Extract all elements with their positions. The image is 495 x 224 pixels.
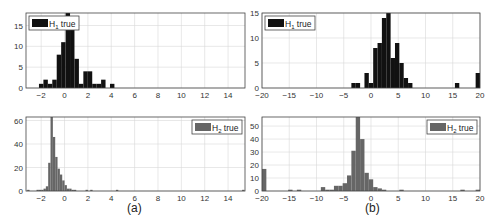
histogram-bar	[60, 175, 62, 191]
y-tick-label: 10	[14, 42, 23, 51]
x-tick-label: −5	[339, 91, 349, 100]
x-tick-label: 2	[86, 194, 91, 203]
x-tick-label: 5	[396, 194, 401, 203]
histogram-bar	[262, 169, 266, 191]
legend: H1 true	[265, 16, 315, 30]
y-tick-label: 20	[250, 161, 259, 170]
histogram-bar	[369, 179, 373, 191]
x-tick-label: 14	[224, 194, 233, 203]
histogram-bar	[101, 80, 105, 88]
caption-a: (a)	[127, 201, 142, 215]
histogram-bar	[70, 30, 74, 88]
y-tick-label: 20	[14, 164, 23, 173]
y-tick-label: 15	[250, 9, 259, 18]
legend-label: H1 true	[285, 19, 312, 30]
histogram-bar	[46, 186, 48, 191]
x-tick-label: −5	[339, 194, 349, 203]
histogram-bar	[356, 83, 360, 88]
x-tick-label: 0	[62, 194, 67, 203]
legend: H1 true	[29, 16, 79, 30]
y-tick-label: 40	[250, 135, 259, 144]
x-tick-label: 12	[200, 194, 209, 203]
figure: −202468101214051015H1 true−2024681012140…	[0, 0, 495, 224]
histogram-bar	[58, 169, 60, 191]
histogram-bar	[65, 185, 67, 191]
y-tick-label: 0	[19, 187, 24, 196]
legend-swatch	[32, 19, 48, 27]
x-tick-label: 10	[177, 194, 186, 203]
x-tick-label: −2	[37, 194, 47, 203]
histogram-bar	[347, 175, 351, 191]
y-tick-label: 5	[255, 59, 260, 68]
histogram-bar	[110, 84, 114, 88]
histogram-bar	[373, 48, 377, 88]
legend-label: H2 true	[447, 123, 474, 134]
caption-b: (b)	[365, 201, 380, 215]
histogram-bar	[455, 83, 459, 88]
histogram-bar	[48, 84, 52, 88]
histogram-bar	[395, 43, 399, 88]
x-tick-label: 8	[156, 91, 161, 100]
x-tick-label: 2	[86, 91, 91, 100]
histogram-bar	[57, 55, 61, 88]
x-tick-label: −15	[282, 91, 296, 100]
histogram-bar	[88, 71, 92, 88]
x-tick-label: 5	[396, 91, 401, 100]
x-tick-label: 20	[476, 91, 485, 100]
y-tick-label: 60	[14, 117, 23, 126]
histogram-bar	[382, 18, 386, 88]
histogram-bar	[43, 80, 47, 88]
x-tick-label: −10	[310, 91, 324, 100]
histogram-bar	[399, 63, 403, 88]
y-tick-label: 10	[250, 174, 259, 183]
histogram-bar	[351, 83, 355, 88]
histogram-bar	[39, 84, 43, 88]
y-tick-label: 15	[14, 22, 23, 31]
histogram-figure: −202468101214051015H1 true−2024681012140…	[0, 0, 495, 224]
x-tick-label: 10	[421, 91, 430, 100]
axes-a-bottom: −2024681012140204060H2 true	[14, 117, 245, 203]
histogram-bar	[343, 183, 347, 191]
histogram-bar	[364, 73, 368, 88]
histogram-bar	[334, 186, 338, 191]
histogram-bar	[55, 157, 57, 191]
y-tick-label: 50	[250, 122, 259, 131]
legend-swatch	[268, 19, 284, 27]
legend-swatch	[430, 123, 446, 131]
histogram-bar	[92, 84, 96, 88]
histogram-bar	[391, 58, 395, 88]
x-tick-label: 10	[177, 91, 186, 100]
histogram-bar	[51, 117, 53, 191]
histogram-bar	[369, 83, 373, 88]
x-tick-label: 10	[421, 194, 430, 203]
legend: H2 true	[192, 120, 242, 134]
histogram-bar	[476, 73, 480, 88]
histogram-bar	[351, 151, 355, 191]
histogram-bar	[408, 83, 412, 88]
histogram-bar	[360, 139, 364, 191]
histogram-bar	[321, 187, 325, 191]
axes-a-top: −202468101214051015H1 true	[14, 13, 245, 100]
y-tick-label: 5	[19, 63, 24, 72]
y-tick-label: 40	[14, 140, 23, 149]
x-tick-label: 12	[200, 91, 209, 100]
x-tick-label: 0	[62, 91, 67, 100]
histogram-bar	[74, 59, 78, 88]
x-tick-label: −2	[37, 91, 47, 100]
x-tick-label: 0	[369, 91, 374, 100]
histogram-bar	[356, 117, 360, 191]
x-tick-label: −15	[282, 194, 296, 203]
axes-b-bottom: −20−15−10−50510152001020304050H2 true	[250, 117, 485, 203]
x-tick-label: 15	[448, 91, 457, 100]
histogram-bar	[52, 80, 56, 88]
histogram-bar	[373, 187, 377, 191]
x-tick-label: 6	[132, 91, 137, 100]
histogram-bar	[53, 137, 55, 191]
histogram-bar	[364, 173, 368, 191]
x-tick-label: −10	[310, 194, 324, 203]
axes-b-top: −20−15−10−505101520051015H1 true	[250, 9, 485, 100]
legend-label: H1 true	[49, 19, 76, 30]
legend: H2 true	[427, 120, 477, 134]
x-tick-label: 15	[448, 194, 457, 203]
x-tick-label: 8	[156, 194, 161, 203]
